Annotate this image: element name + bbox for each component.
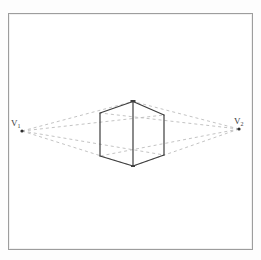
vanishing-point-v1-label: V1 bbox=[11, 119, 21, 129]
vanishing-point-v2-label: V2 bbox=[234, 117, 244, 127]
vanishing-point-v1-marker bbox=[20, 129, 23, 132]
perspective-diagram bbox=[0, 0, 261, 260]
cube-vertex-bottom bbox=[131, 165, 135, 167]
figure-canvas: V1 V2 bbox=[0, 0, 261, 260]
drawing-frame bbox=[9, 14, 253, 250]
vanishing-point-v2-subscript: 2 bbox=[241, 121, 244, 127]
cube-vertex-top bbox=[131, 100, 136, 102]
vanishing-point-v2-marker bbox=[237, 127, 240, 130]
vanishing-point-v1-subscript: 1 bbox=[18, 123, 21, 129]
